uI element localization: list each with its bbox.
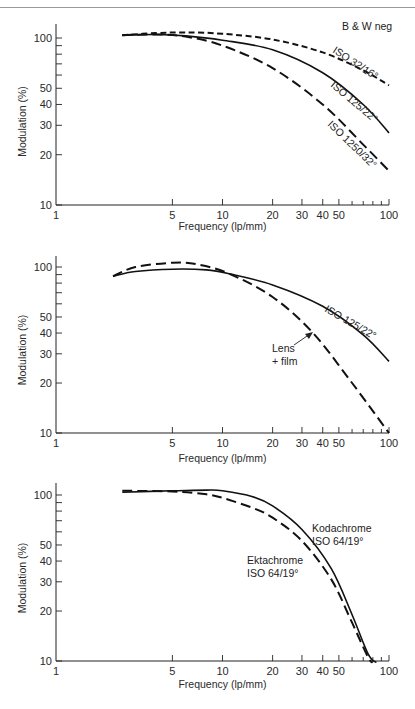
series-label-iso1250: ISO 1250/32°: [326, 118, 380, 171]
y-tick-label: 100: [34, 32, 52, 44]
ektachrome-label-line2: ISO 64/19°: [247, 567, 298, 579]
y-tick-label: 10: [40, 199, 52, 211]
x-axis-title: Frequency (lp/mm): [178, 678, 266, 690]
x-tick-label: 5: [169, 437, 175, 449]
x-axis-title: Frequency (lp/mm): [178, 452, 266, 464]
x-tick-label: 10: [216, 665, 228, 677]
x-tick-label: 40: [317, 209, 329, 221]
series-line: [122, 34, 389, 133]
x-tick-label: 1: [53, 665, 59, 677]
y-tick-label: 100: [34, 489, 52, 501]
x-tick-label: 30: [296, 209, 308, 221]
y-tick-label: 40: [40, 327, 52, 339]
x-tick-label: 40: [317, 437, 329, 449]
series-line: [113, 263, 389, 433]
y-tick-label: 30: [40, 348, 52, 360]
series-label-iso125: ISO 125/22°: [323, 302, 379, 341]
x-tick-label: 100: [380, 665, 398, 677]
x-tick-label: 50: [333, 437, 345, 449]
chart-color-reversal: 1020304050100151020304050100Frequency (l…: [16, 483, 398, 690]
x-tick-label: 1: [53, 437, 59, 449]
mtf-charts: 1020304050100151020304050100Frequency (l…: [0, 0, 415, 709]
series-label-iso32: ISO 32/16°: [331, 44, 381, 82]
y-axis-title: Modulation (%): [16, 543, 28, 614]
y-tick-label: 20: [40, 377, 52, 389]
chart-lens-plus-film: 1020304050100151020304050100Frequency (l…: [16, 256, 398, 464]
y-tick-label: 50: [40, 539, 52, 551]
y-axis-title: Modulation (%): [16, 315, 28, 386]
lens-film-label-line2: + film: [272, 355, 298, 367]
kodachrome-label-line2: ISO 64/19°: [312, 535, 363, 547]
series-label-iso125: ISO 125/22°: [329, 78, 381, 124]
y-tick-label: 10: [40, 427, 52, 439]
lens-film-label-line1: Lens: [272, 342, 295, 354]
y-tick-label: 30: [40, 119, 52, 131]
x-tick-label: 5: [169, 209, 175, 221]
ektachrome-label-line1: Ektachrome: [247, 554, 303, 566]
x-tick-label: 1: [53, 209, 59, 221]
x-tick-label: 20: [266, 665, 278, 677]
chart1-title: B & W neg: [342, 20, 392, 32]
y-tick-label: 100: [34, 261, 52, 273]
y-tick-label: 50: [40, 311, 52, 323]
x-tick-label: 50: [333, 665, 345, 677]
x-tick-label: 30: [296, 437, 308, 449]
y-tick-label: 40: [40, 555, 52, 567]
arrow-head-icon: [305, 332, 313, 339]
x-tick-label: 30: [296, 665, 308, 677]
x-tick-label: 50: [333, 209, 345, 221]
x-tick-label: 100: [380, 209, 398, 221]
y-axis-title: Modulation (%): [16, 86, 28, 157]
x-tick-label: 20: [266, 437, 278, 449]
kodachrome-label-line1: Kodachrome: [312, 522, 372, 534]
y-tick-label: 20: [40, 149, 52, 161]
x-tick-label: 5: [169, 665, 175, 677]
x-tick-label: 20: [266, 209, 278, 221]
y-tick-label: 30: [40, 576, 52, 588]
x-tick-label: 40: [317, 665, 329, 677]
x-axis-title: Frequency (lp/mm): [178, 220, 266, 232]
x-tick-label: 10: [216, 437, 228, 449]
y-tick-label: 50: [40, 82, 52, 94]
x-tick-label: 100: [380, 437, 398, 449]
y-tick-label: 40: [40, 98, 52, 110]
y-tick-label: 10: [40, 655, 52, 667]
y-tick-label: 20: [40, 605, 52, 617]
